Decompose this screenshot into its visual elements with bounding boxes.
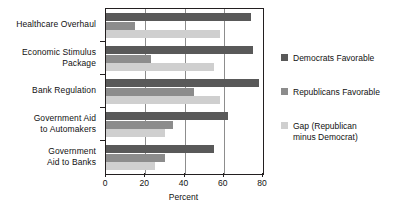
bar <box>106 145 214 153</box>
bar <box>106 63 214 71</box>
x-axis-tick-label: 80 <box>257 178 266 188</box>
x-axis-tick <box>105 173 106 177</box>
bar-group <box>106 108 263 141</box>
bar <box>106 22 135 30</box>
y-axis-labels: Healthcare OverhaulEconomic StimulusPack… <box>0 8 100 173</box>
x-axis-tick-label: 20 <box>140 178 149 188</box>
bar-group <box>106 9 263 42</box>
legend-label: Democrats Favorable <box>293 53 406 64</box>
bar <box>106 46 253 54</box>
legend-label-line: Democrats Favorable <box>293 53 406 64</box>
legend-label-line: minus Democrat) <box>293 132 406 143</box>
x-axis-tick-label: 0 <box>103 178 108 188</box>
bar <box>106 96 220 104</box>
x-axis-tick <box>144 173 145 177</box>
y-axis-label-line: Package <box>0 58 96 69</box>
legend-label-line: Gap (Republican <box>293 121 406 132</box>
bar <box>106 88 194 96</box>
x-axis-title: Percent <box>105 192 262 202</box>
y-axis-label: GovernmentAid to Banks <box>0 146 96 167</box>
bar <box>106 121 173 129</box>
x-axis-tick-label: 40 <box>179 178 188 188</box>
legend-swatch-icon <box>281 88 288 95</box>
y-axis-label-line: to Automakers <box>0 124 96 135</box>
legend-label-line: Republicans Favorable <box>293 87 406 98</box>
x-axis-tick-label: 60 <box>218 178 227 188</box>
y-axis-label: Bank Regulation <box>0 85 96 96</box>
y-axis-label: Economic StimulusPackage <box>0 47 96 68</box>
bar <box>106 162 155 170</box>
y-axis-label-line: Government Aid <box>0 113 96 124</box>
bar-chart: Healthcare OverhaulEconomic StimulusPack… <box>0 0 410 216</box>
x-axis-tick <box>223 173 224 177</box>
bar-group <box>106 42 263 75</box>
bar <box>106 112 228 120</box>
bar <box>106 30 220 38</box>
bar <box>106 13 251 21</box>
legend-label: Gap (Republicanminus Democrat) <box>293 121 406 142</box>
y-axis-label: Government Aidto Automakers <box>0 113 96 134</box>
legend-label: Republicans Favorable <box>293 87 406 98</box>
y-axis-label: Healthcare Overhaul <box>0 19 96 30</box>
legend-swatch-icon <box>281 122 288 129</box>
bar <box>106 154 165 162</box>
y-axis-label-line: Healthcare Overhaul <box>0 19 96 30</box>
plot-area <box>105 8 264 175</box>
x-axis-tick <box>184 173 185 177</box>
bar-group <box>106 75 263 108</box>
y-axis-label-line: Government <box>0 146 96 157</box>
bar <box>106 129 165 137</box>
x-axis-tick <box>262 173 263 177</box>
bar <box>106 55 151 63</box>
bar-group <box>106 141 263 174</box>
y-axis-label-line: Economic Stimulus <box>0 47 96 58</box>
y-axis-label-line: Aid to Banks <box>0 157 96 168</box>
legend-swatch-icon <box>281 54 288 61</box>
bar <box>106 79 259 87</box>
y-axis-label-line: Bank Regulation <box>0 85 96 96</box>
